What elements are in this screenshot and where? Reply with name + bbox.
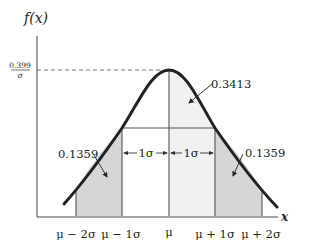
peak-value-denominator: σ	[17, 71, 23, 80]
tick-mu-plus-1sigma: μ + 1σ	[195, 227, 235, 241]
area-center-label: 0.3413	[211, 77, 251, 91]
x-axis-label: x	[280, 210, 289, 224]
tick-mu-minus-1sigma: μ − 1σ	[101, 227, 141, 241]
normal-distribution-chart: 1σ 1σ 0.3413 0.1359 0.1359 f(x) 0.399 σ …	[0, 0, 321, 249]
peak-value-numerator: 0.399	[9, 61, 31, 70]
region-right-tail	[215, 128, 262, 216]
tick-mu-minus-2sigma: μ − 2σ	[56, 227, 96, 241]
area-right-label: 0.1359	[245, 146, 285, 160]
region-center-right	[169, 70, 215, 216]
sigma-left-label: 1σ	[138, 146, 153, 160]
tick-mu-plus-2sigma: μ + 2σ	[241, 227, 281, 241]
area-left-label: 0.1359	[58, 147, 98, 161]
sigma-right-label: 1σ	[183, 146, 198, 160]
tick-mu: μ	[165, 225, 173, 239]
region-left-tail	[76, 128, 122, 216]
x-tick-labels: μ − 2σ μ − 1σ μ μ + 1σ μ + 2σ	[56, 225, 281, 241]
y-axis-label: f(x)	[23, 10, 48, 26]
